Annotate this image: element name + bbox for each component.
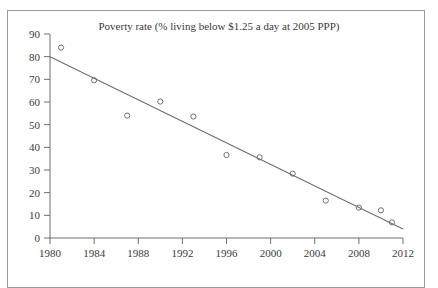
data-point-marker (58, 45, 63, 50)
y-axis-ticks: 0102030405060708090 (29, 28, 50, 244)
data-point-marker (125, 113, 130, 118)
x-tick-label: 1996 (216, 247, 239, 259)
y-tick-label: 60 (29, 96, 41, 108)
trend-line (50, 57, 403, 229)
chart-title: Poverty rate (% living below $1.25 a day… (98, 20, 339, 33)
y-tick-label: 0 (35, 232, 41, 244)
x-tick-label: 1992 (171, 247, 193, 259)
data-point-marker (323, 198, 328, 203)
y-tick-label: 40 (29, 141, 41, 153)
y-tick-label: 30 (29, 164, 41, 176)
data-point-marker (191, 114, 196, 119)
data-point-marker (378, 208, 383, 213)
x-tick-label: 1988 (127, 247, 150, 259)
data-points (58, 45, 394, 225)
x-tick-label: 2008 (348, 247, 371, 259)
x-tick-label: 2012 (392, 247, 414, 259)
x-tick-label: 2004 (304, 247, 327, 259)
data-point-marker (158, 99, 163, 104)
trend-line-segment (50, 57, 403, 229)
y-tick-label: 70 (29, 73, 41, 85)
y-tick-label: 90 (29, 28, 41, 40)
x-tick-label: 1980 (39, 247, 62, 259)
x-tick-label: 1984 (83, 247, 106, 259)
y-tick-label: 50 (29, 119, 41, 131)
y-tick-label: 20 (29, 187, 41, 199)
x-tick-label: 2000 (260, 247, 283, 259)
data-point-marker (224, 152, 229, 157)
x-axis-ticks: 198019841988199219962000200420082012 (39, 238, 414, 259)
y-tick-label: 10 (29, 209, 41, 221)
y-tick-label: 80 (29, 51, 41, 63)
